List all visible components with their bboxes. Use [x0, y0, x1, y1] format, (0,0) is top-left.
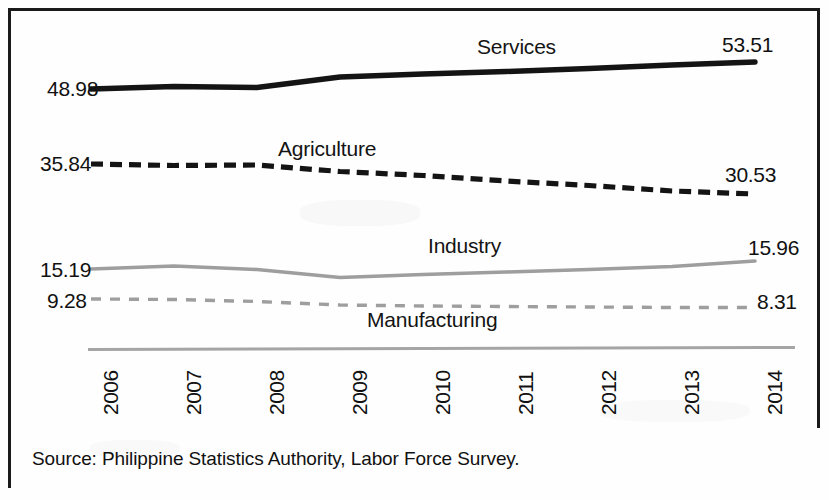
- x-axis-tick-labels: 200620072008200920102011201220132014: [0, 352, 829, 422]
- series-line-agriculture: [91, 164, 755, 194]
- series-line-manufacturing: [91, 299, 755, 308]
- series-line-services: [91, 62, 755, 89]
- line-chart-svg: [0, 0, 829, 360]
- x-tick-label: 2014: [763, 370, 787, 415]
- series-label-manufacturing: Manufacturing: [367, 308, 497, 332]
- x-tick-label: 2013: [680, 370, 704, 415]
- agriculture-end-value: 30.53: [725, 163, 776, 187]
- x-tick-label: 2007: [182, 370, 206, 415]
- services-end-value: 53.51: [722, 33, 773, 57]
- x-tick-label: 2008: [265, 370, 289, 415]
- source-note: Source: Philippine Statistics Authority,…: [32, 448, 520, 470]
- x-tick-label: 2006: [99, 370, 123, 415]
- agriculture-start-value: 35.84: [40, 152, 91, 176]
- series-label-agriculture: Agriculture: [278, 137, 376, 161]
- series-line-industry: [91, 261, 755, 278]
- industry-start-value: 15.19: [40, 258, 91, 282]
- services-start-value: 48.98: [47, 77, 98, 101]
- manufacturing-end-value: 8.31: [757, 290, 797, 314]
- x-tick-label: 2009: [348, 370, 372, 415]
- x-axis-baseline: [88, 348, 795, 350]
- x-tick-label: 2012: [597, 370, 621, 415]
- figure-frame: 48.98 53.51 35.84 30.53 15.19 15.96 9.28…: [0, 0, 829, 500]
- x-tick-label: 2011: [514, 372, 538, 415]
- x-tick-label: 2010: [431, 370, 455, 415]
- industry-end-value: 15.96: [748, 236, 799, 260]
- series-label-services: Services: [477, 35, 556, 59]
- series-label-industry: Industry: [428, 234, 501, 258]
- chart-plot-area: 48.98 53.51 35.84 30.53 15.19 15.96 9.28…: [0, 0, 829, 360]
- manufacturing-start-value: 9.28: [47, 289, 87, 313]
